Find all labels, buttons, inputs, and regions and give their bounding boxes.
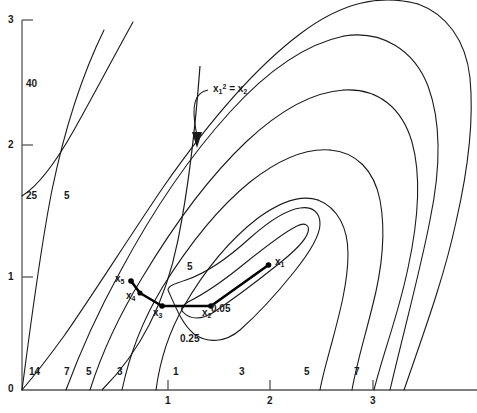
point-label-x5: x5 bbox=[115, 274, 124, 285]
axes-group bbox=[22, 20, 477, 390]
y-tick-label-3: 3 bbox=[8, 15, 14, 25]
contour-label-40: 40 bbox=[26, 79, 37, 89]
contour-label-7-right: 7 bbox=[354, 367, 360, 377]
contour-label-7-left: 7 bbox=[64, 367, 70, 377]
contour-label-5-left: 5 bbox=[86, 367, 92, 377]
annotation-sub-2: 2 bbox=[243, 88, 247, 95]
point-sub-x4: 4 bbox=[132, 295, 136, 302]
parabola-annotation-label: x12 = x2 bbox=[213, 83, 247, 95]
point-sub-x5: 5 bbox=[121, 278, 125, 285]
point-label-x4: x4 bbox=[126, 291, 135, 302]
plot-canvas bbox=[0, 0, 477, 413]
search-path-line bbox=[131, 265, 269, 306]
contour-label-25: 25 bbox=[26, 191, 37, 201]
contour-label-5-right: 5 bbox=[304, 367, 310, 377]
contour-level-1-right bbox=[318, 200, 348, 390]
annotation-arrow-group bbox=[192, 90, 208, 148]
contour-label-3-left: 3 bbox=[117, 367, 123, 377]
point-label-x1: x1 bbox=[275, 257, 284, 268]
contour-level-005 bbox=[182, 224, 309, 318]
contour-label-5-inner: 5 bbox=[187, 262, 193, 272]
contour-level-7-left bbox=[66, 36, 344, 390]
search-path-group bbox=[128, 262, 271, 309]
annotation-equals: = bbox=[226, 83, 237, 94]
contour-level-025 bbox=[168, 208, 320, 341]
contour-label-025: 0.25 bbox=[180, 334, 199, 344]
x-tick-label-1: 1 bbox=[165, 396, 171, 406]
contour-level-25 bbox=[22, 22, 133, 196]
point-sub-x1: 1 bbox=[281, 261, 285, 268]
contour-lines-group bbox=[22, 0, 471, 390]
x-tick-label-3: 3 bbox=[370, 396, 376, 406]
search-path-point-x4 bbox=[137, 290, 142, 295]
contour-level-14 bbox=[22, 0, 418, 390]
contour-label-005: 0.05 bbox=[211, 304, 230, 314]
y-tick-label-2: 2 bbox=[8, 140, 14, 150]
point-label-x3: x3 bbox=[153, 308, 162, 319]
contour-level-7-right bbox=[344, 35, 438, 390]
search-path-point-x1 bbox=[266, 262, 272, 268]
search-path-point-x5 bbox=[128, 278, 134, 284]
contour-plot-figure: 3 2 1 0 1 2 3 40 25 14 7 5 5 3 1 3 5 7 5… bbox=[0, 0, 477, 413]
x-tick-label-2: 2 bbox=[267, 396, 273, 406]
contour-level-3-right bbox=[330, 150, 383, 390]
contour-label-1-bottom: 1 bbox=[173, 367, 179, 377]
contour-label-5-axis: 5 bbox=[64, 191, 70, 201]
contour-label-14: 14 bbox=[29, 367, 40, 377]
contour-level-3-left bbox=[122, 150, 330, 390]
contour-level-5-right bbox=[344, 90, 418, 390]
point-label-x2: x2 bbox=[202, 308, 211, 319]
point-sub-x2: 2 bbox=[208, 312, 212, 319]
contour-label-3-right: 3 bbox=[239, 367, 245, 377]
y-tick-label-1: 1 bbox=[8, 272, 14, 282]
y-tick-label-0: 0 bbox=[8, 384, 14, 394]
point-sub-x3: 3 bbox=[159, 312, 163, 319]
